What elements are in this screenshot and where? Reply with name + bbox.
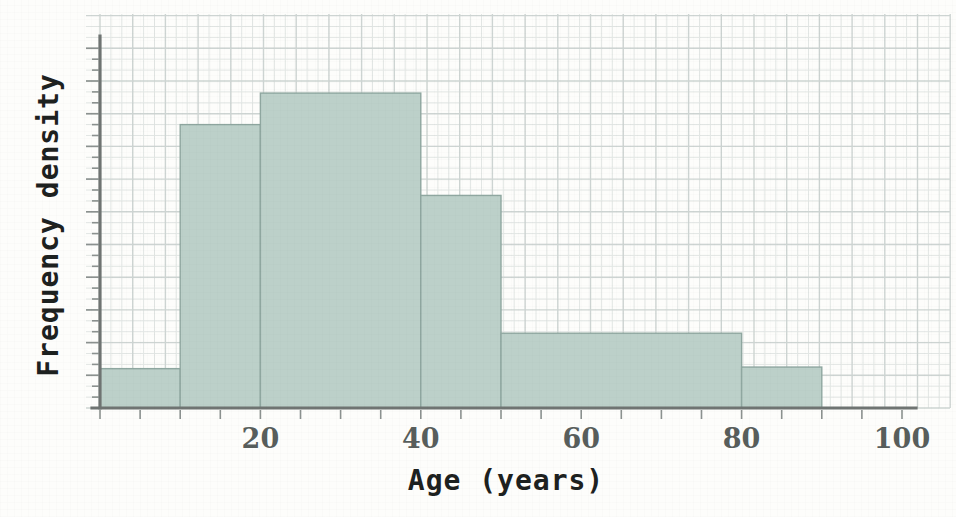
- x-tick-label: 100: [874, 423, 930, 454]
- x-tick-label: 80: [723, 423, 761, 454]
- x-axis-title: Age (years): [408, 464, 604, 497]
- histogram-bar: [421, 195, 501, 408]
- x-tick-label: 20: [242, 423, 280, 454]
- x-tick-label: 60: [562, 423, 600, 454]
- frequency-density-histogram: 20406080100 Age (years) Frequency densit…: [0, 0, 956, 517]
- histogram-bar: [180, 125, 260, 408]
- x-tick-label: 40: [402, 423, 440, 454]
- histogram-bar: [100, 369, 180, 408]
- histogram-bar: [742, 367, 822, 408]
- histogram-bar: [260, 93, 420, 408]
- histogram-bar: [501, 333, 742, 408]
- histogram-figure: 20406080100 Age (years) Frequency densit…: [0, 0, 956, 517]
- y-axis-title: Frequency density: [32, 73, 65, 377]
